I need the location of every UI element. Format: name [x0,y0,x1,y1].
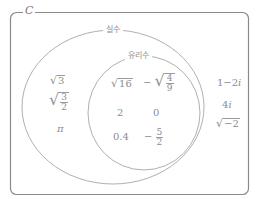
element-sqrt-3-over-2: √32 [49,92,69,112]
element-sqrt-neg2: √−2 [216,118,240,130]
rational-set-label: 유리수 [125,52,152,60]
element-neg-sqrt-4-over-9: − √49 [143,73,175,93]
element-sqrt3: √3 [50,75,65,87]
real-set-label: 실수 [103,26,123,34]
element-one-minus-2i: 1−2i [217,78,241,88]
element-zero-point-four: 0.4 [113,132,129,142]
element-neg-5-over-2: − 52 [144,128,163,147]
element-pi: π [57,124,64,134]
universe-frame [11,13,249,195]
universe-label: C [23,5,35,16]
element-four-i: 4i [222,100,232,110]
element-sqrt16: √16 [111,78,133,90]
element-zero: 0 [153,108,159,118]
element-two: 2 [117,108,123,118]
venn-diagram [0,0,259,199]
